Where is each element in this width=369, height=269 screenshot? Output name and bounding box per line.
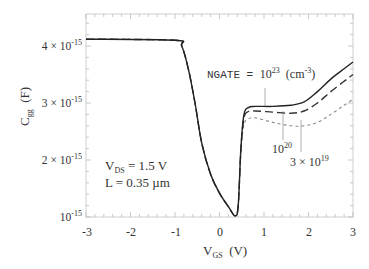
- y-tick-2e-15: 2 × 10-15: [12, 155, 82, 167]
- x-tick--3: -3: [77, 226, 97, 238]
- y-tick-4e-15: 4 × 10-15: [12, 41, 82, 53]
- x-tick-0: 0: [210, 226, 230, 238]
- label-1e20: 1020: [272, 143, 292, 155]
- x-tick--1: -1: [166, 226, 186, 238]
- ngate-annotation: NGATE = 1023 (cm-3): [207, 68, 315, 81]
- x-axis-label: VGS (V): [203, 244, 247, 257]
- y-tick-1e-15: 10-15: [12, 212, 82, 224]
- x-tick--2: -2: [121, 226, 141, 238]
- y-axis-label: Cgg (F): [18, 87, 31, 126]
- x-tick-3: 3: [343, 226, 363, 238]
- label-3e19: 3 × 1019: [290, 156, 329, 168]
- conditions-length: L = 0.35 µm: [105, 176, 170, 189]
- x-tick-2: 2: [299, 226, 319, 238]
- x-tick-1: 1: [254, 226, 274, 238]
- conditions-vds: VDS = 1.5 V: [105, 159, 167, 172]
